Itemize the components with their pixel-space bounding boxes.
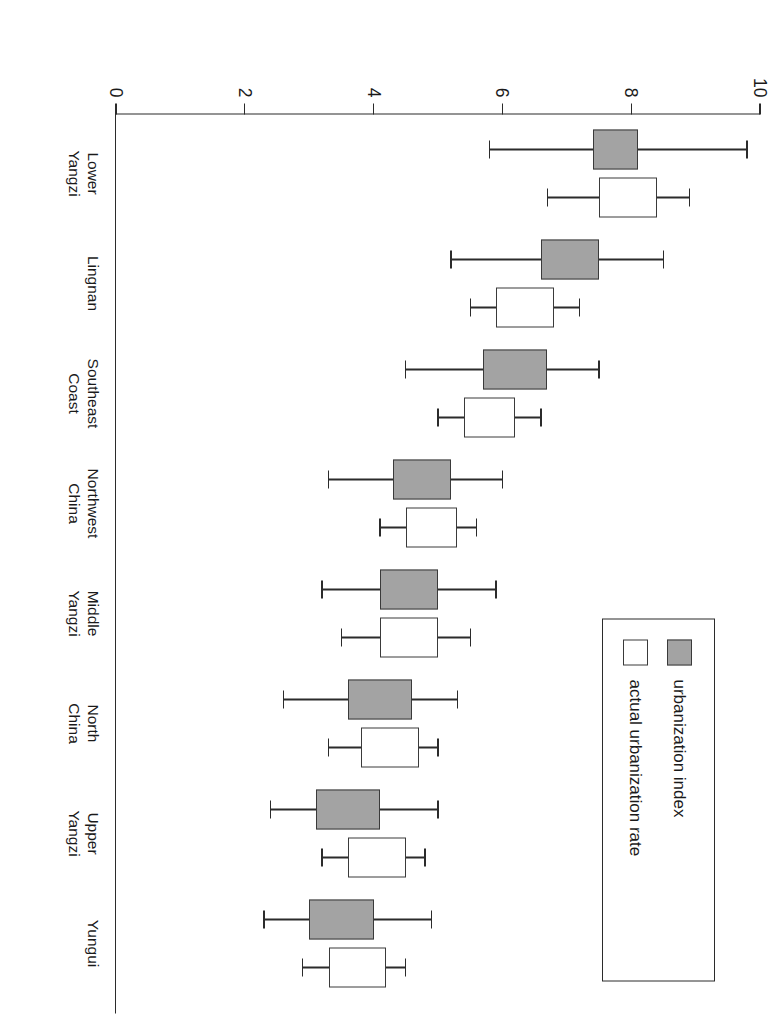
- whisker-cap-lower: [302, 958, 303, 976]
- value-tick-label: 0: [107, 87, 125, 97]
- box-northwest-china-hollow: [406, 507, 458, 547]
- legend-label-urbanization-index: urbanization index: [670, 679, 689, 817]
- whisker-cap-lower: [283, 690, 284, 708]
- value-tick-0: [115, 103, 116, 114]
- box-lower-yangzi-filled: [593, 129, 638, 169]
- box-upper-yangzi-hollow: [348, 837, 406, 877]
- category-label-yungui: Yungui: [84, 883, 103, 1003]
- legend-label-actual-urbanization-rate: actual urbanization rate: [626, 679, 645, 856]
- category-label-lingnan: Lingnan: [84, 223, 103, 343]
- whisker-cap-upper: [431, 910, 432, 928]
- category-label-upper-yangzi: Upper Yangzi: [65, 773, 102, 893]
- whisker-cap-lower: [470, 298, 471, 316]
- value-axis-line: [115, 113, 760, 114]
- legend-entry-actual-urbanization-rate: actual urbanization rate: [623, 639, 648, 856]
- rotated-figure-stage: 1086420 Lower YangziLingnanSoutheast Coa…: [0, 0, 778, 1033]
- whisker-cap-lower: [405, 360, 406, 378]
- box-southeast-coast-filled: [483, 349, 547, 389]
- category-label-northwest-china: Northwest China: [65, 443, 102, 563]
- whisker-cap-lower: [328, 738, 329, 756]
- value-tick-label: 10: [751, 78, 769, 97]
- whisker-cap-upper: [437, 738, 438, 756]
- value-tick-10: [759, 103, 760, 114]
- whisker-cap-lower: [450, 250, 451, 268]
- whisker-cap-lower: [328, 470, 329, 488]
- value-tick-label: 2: [236, 87, 254, 97]
- box-middle-yangzi-hollow: [380, 617, 438, 657]
- whisker-cap-lower: [379, 518, 380, 536]
- whisker-cap-lower: [263, 910, 264, 928]
- whisker-cap-upper: [663, 250, 664, 268]
- box-northwest-china-filled: [393, 459, 451, 499]
- whisker-cap-lower: [341, 628, 342, 646]
- value-tick-2: [244, 103, 245, 114]
- box-southeast-coast-hollow: [464, 397, 516, 437]
- whisker-cap-upper: [470, 628, 471, 646]
- category-label-lower-yangzi: Lower Yangzi: [65, 113, 102, 233]
- whisker-cap-lower: [547, 188, 548, 206]
- legend-swatch-filled: [667, 639, 692, 665]
- whisker-cap-upper: [424, 848, 425, 866]
- category-label-middle-yangzi: Middle Yangzi: [65, 553, 102, 673]
- whisker-cap-upper: [502, 470, 503, 488]
- whisker-cap-upper: [689, 188, 690, 206]
- category-axis-line: [115, 113, 116, 1013]
- box-middle-yangzi-filled: [380, 569, 438, 609]
- box-yungui-filled: [309, 899, 373, 939]
- box-yungui-hollow: [329, 947, 387, 987]
- legend-entry-urbanization-index: urbanization index: [667, 639, 692, 817]
- legend-swatch-hollow: [623, 639, 648, 665]
- whisker-cap-lower: [321, 580, 322, 598]
- whisker-cap-upper: [476, 518, 477, 536]
- whisker-cap-upper: [579, 298, 580, 316]
- whisker-cap-upper: [437, 800, 438, 818]
- category-label-southeast-coast: Southeast Coast: [65, 333, 102, 453]
- whisker-cap-upper: [457, 690, 458, 708]
- whisker-cap-upper: [598, 360, 599, 378]
- chart-legend: urbanization index actual urbanization r…: [602, 618, 715, 981]
- value-tick-label: 4: [365, 87, 383, 97]
- value-tick-8: [631, 103, 632, 114]
- whisker-cap-lower: [321, 848, 322, 866]
- box-lingnan-hollow: [496, 287, 554, 327]
- chart-plot-area: 1086420 Lower YangziLingnanSoutheast Coa…: [0, 0, 778, 1033]
- value-tick-6: [502, 103, 503, 114]
- value-tick-4: [373, 103, 374, 114]
- box-lingnan-filled: [541, 239, 599, 279]
- whisker-cap-lower: [489, 140, 490, 158]
- value-tick-label: 8: [622, 87, 640, 97]
- whisker-cap-upper: [495, 580, 496, 598]
- whisker-cap-lower: [437, 408, 438, 426]
- box-upper-yangzi-filled: [316, 789, 380, 829]
- box-lower-yangzi-hollow: [599, 177, 657, 217]
- box-north-china-filled: [348, 679, 412, 719]
- whisker-cap-upper: [746, 140, 747, 158]
- value-tick-label: 6: [493, 87, 511, 97]
- whisker-cap-upper: [540, 408, 541, 426]
- category-label-north-china: North China: [65, 663, 102, 783]
- box-north-china-hollow: [361, 727, 419, 767]
- whisker-cap-upper: [405, 958, 406, 976]
- whisker-cap-lower: [270, 800, 271, 818]
